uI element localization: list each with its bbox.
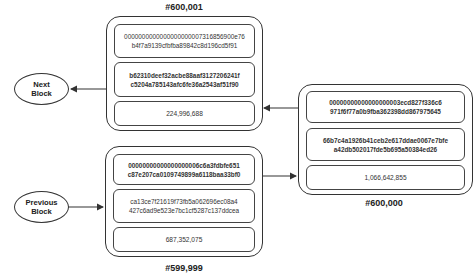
block-hash-cell: 00000000000000000003ecd827f336c6 971f6f7… <box>306 91 465 123</box>
merkle-root-line1: 66b7c4a1926b41ceb2e617ddae0067e7bfe <box>323 136 448 145</box>
merkle-root-cell: b62310deef32acbe88aaf3127206241f c5204a7… <box>114 62 255 97</box>
block-600001-label: #600,001 <box>144 2 224 12</box>
previous-block-node: Previous Block <box>14 191 69 223</box>
block-599999: 00000000000000000006c6a3fdbfe651 c87e207… <box>105 146 263 257</box>
merkle-root-cell: ca13ce7f21619f73fb5a062696ec08a4 427c6ad… <box>113 189 255 223</box>
block-value: 687,352,075 <box>166 235 203 244</box>
next-block-line2: Block <box>31 89 52 98</box>
block-hash-line2: c87e207ca0109749899a6118baa33bf0 <box>128 170 241 179</box>
block-hash-line1: 00000000000000000006c6a3fdbfe651 <box>128 161 241 170</box>
previous-block-line2: Block <box>25 207 57 216</box>
next-block-node: Next Block <box>14 73 69 105</box>
block-hash-cell: 00000000000000000006c6a3fdbfe651 c87e207… <box>113 154 255 185</box>
block-600000-label: #600,000 <box>344 198 424 208</box>
block-value: 224,996,688 <box>166 109 203 118</box>
value-cell: 687,352,075 <box>113 227 255 252</box>
merkle-root-line1: ca13ce7f21619f73fb5a062696ec08a4 <box>129 197 239 206</box>
value-cell: 224,996,688 <box>114 101 255 126</box>
value-cell: 1,066,642,855 <box>306 165 465 190</box>
block-599999-label: #599,999 <box>144 263 224 273</box>
merkle-root-cell: 66b7c4a1926b41ceb2e617ddae0067e7bfe a42d… <box>306 128 465 161</box>
merkle-root-line2: 427c6ad9e523e7bc1cf5287c137ddcea <box>129 206 239 215</box>
block-hash-line1: 0000000000000000000007316856900e76 <box>124 32 245 41</box>
block-hash-line2: b4f7a9139cfbfba89842c8d196cd5f91 <box>124 41 245 50</box>
block-600001: 0000000000000000000007316856900e76 b4f7a… <box>106 16 263 131</box>
block-hash-line1: 00000000000000000003ecd827f336c6 <box>329 98 442 107</box>
next-block-line1: Next <box>31 80 52 89</box>
block-hash-cell: 0000000000000000000007316856900e76 b4f7a… <box>114 24 255 58</box>
block-hash-line2: 971f6f77a0b9fba362398dd867975645 <box>329 107 442 116</box>
block-value: 1,066,642,855 <box>364 173 406 182</box>
previous-block-line1: Previous <box>25 198 57 207</box>
merkle-root-line2: c5204a785143afc6fe36a2543af51f90 <box>129 80 240 89</box>
merkle-root-line1: b62310deef32acbe88aaf3127206241f <box>129 71 240 80</box>
block-600000: 00000000000000000003ecd827f336c6 971f6f7… <box>298 84 473 195</box>
merkle-root-line2: a42db502017fde5b695a50384ed26 <box>323 145 448 154</box>
